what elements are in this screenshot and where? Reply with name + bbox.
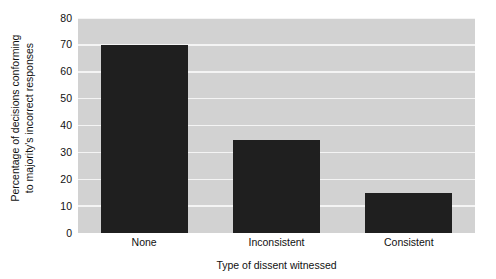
- bar: [365, 193, 452, 233]
- bar: [101, 45, 188, 233]
- y-axis-tick-label: 60: [60, 66, 72, 77]
- plot-area: [78, 18, 475, 233]
- y-axis-tick-labels: 01020304050607080: [44, 0, 76, 279]
- bar-chart-figure: Percentage of decisions conformingto maj…: [0, 0, 496, 279]
- y-axis-tick-label: 0: [66, 228, 72, 239]
- y-axis-tick-label: 40: [60, 120, 72, 131]
- y-axis-tick-label: 10: [60, 201, 72, 212]
- y-axis-title-line-1: Percentage of decisions conforming: [9, 35, 21, 202]
- x-axis-tick-label: Inconsistent: [210, 236, 342, 248]
- y-axis-tick-label: 30: [60, 147, 72, 158]
- gridline: [78, 18, 475, 19]
- y-axis-tick-label: 80: [60, 13, 72, 24]
- x-axis-tick-label: None: [78, 236, 210, 248]
- x-axis-title: Type of dissent witnessed: [78, 259, 475, 271]
- y-axis-tick-label: 70: [60, 39, 72, 50]
- y-axis-title: Percentage of decisions conformingto maj…: [8, 18, 36, 218]
- y-axis-tick-label: 50: [60, 93, 72, 104]
- y-axis-title-wrapper: Percentage of decisions conformingto maj…: [0, 0, 44, 240]
- y-axis-title-line-2: to majority's incorrect responses: [22, 18, 36, 218]
- bar: [233, 140, 320, 233]
- x-axis-tick-label: Consistent: [343, 236, 475, 248]
- x-axis-tick-labels: NoneInconsistentConsistent: [78, 236, 475, 252]
- y-axis-tick-label: 20: [60, 174, 72, 185]
